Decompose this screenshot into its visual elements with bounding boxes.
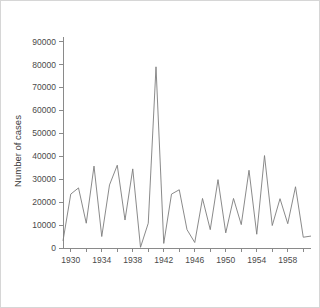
x-tick-label: 1954 xyxy=(247,255,266,265)
x-tick-label: 1946 xyxy=(185,255,204,265)
y-tick-label: 60000 xyxy=(32,105,56,115)
data-series-line xyxy=(63,67,311,247)
x-tick-label: 1958 xyxy=(278,255,297,265)
y-tick-group: 0100002000030000400005000060000700008000… xyxy=(32,37,63,253)
y-tick-label: 70000 xyxy=(32,82,56,92)
x-tick-label: 1950 xyxy=(216,255,235,265)
x-tick-group: 19301934193819421946195019541958 xyxy=(61,248,303,265)
line-chart: 0100002000030000400005000060000700008000… xyxy=(1,1,320,308)
x-tick-label: 1938 xyxy=(123,255,142,265)
x-tick-label: 1934 xyxy=(92,255,111,265)
y-tick-label: 50000 xyxy=(32,128,56,138)
y-tick-label: 10000 xyxy=(32,220,56,230)
y-tick-label: 90000 xyxy=(32,37,56,47)
y-tick-label: 0 xyxy=(51,243,56,253)
series-group xyxy=(63,67,311,247)
y-tick-label: 20000 xyxy=(32,197,56,207)
y-axis-title: Number of cases xyxy=(12,115,23,187)
x-tick-label: 1942 xyxy=(154,255,173,265)
figure-frame: 0100002000030000400005000060000700008000… xyxy=(0,0,320,308)
y-tick-label: 40000 xyxy=(32,151,56,161)
y-tick-label: 80000 xyxy=(32,60,56,70)
y-tick-label: 30000 xyxy=(32,174,56,184)
x-tick-label: 1930 xyxy=(61,255,80,265)
